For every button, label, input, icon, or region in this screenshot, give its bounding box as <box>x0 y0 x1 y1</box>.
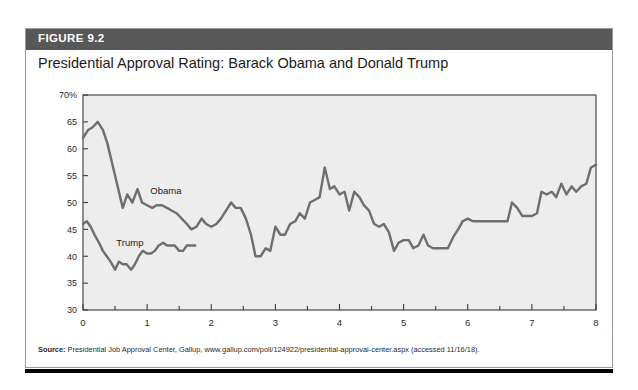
approval-rating-line-chart: 303540455055606570% 012345678 ObamaTrump <box>26 87 614 342</box>
series-label-obama: Obama <box>150 185 182 196</box>
x-tick-label: 7 <box>529 317 534 328</box>
y-tick-label: 45 <box>67 225 77 235</box>
figure-container: FIGURE 9.2 Presidential Approval Rating:… <box>25 28 613 368</box>
x-tick-label: 3 <box>273 317 278 328</box>
source-note: Source: Presidential Job Approval Center… <box>38 345 602 355</box>
x-tick-label: 8 <box>593 317 598 328</box>
y-tick-label: 30 <box>67 305 77 315</box>
x-axis-tick-labels: 012345678 <box>80 317 598 328</box>
plot-background <box>83 95 596 310</box>
x-tick-label: 0 <box>80 317 85 328</box>
chart-title: Presidential Approval Rating: Barack Oba… <box>38 55 448 71</box>
x-tick-label: 1 <box>144 317 149 328</box>
y-tick-label: 40 <box>67 252 77 262</box>
figure-header-bar: FIGURE 9.2 <box>26 29 612 50</box>
y-tick-label: 35 <box>67 278 77 288</box>
figure-bottom-rule <box>25 369 613 373</box>
y-tick-label: 60 <box>67 144 77 154</box>
y-tick-label: 65 <box>67 117 77 127</box>
x-tick-label: 2 <box>209 317 214 328</box>
y-tick-label: 55 <box>67 171 77 181</box>
figure-number-label: FIGURE 9.2 <box>38 32 105 44</box>
x-tick-label: 5 <box>401 317 406 328</box>
series-label-trump: Trump <box>116 237 143 248</box>
source-label: Source: <box>38 345 66 354</box>
chart-plot-area: 303540455055606570% 012345678 ObamaTrump <box>26 87 612 342</box>
y-tick-label: 70% <box>59 90 77 100</box>
x-tick-label: 6 <box>465 317 470 328</box>
y-tick-label: 50 <box>67 198 77 208</box>
x-tick-label: 4 <box>337 317 342 328</box>
y-axis-tick-labels: 303540455055606570% <box>59 90 77 315</box>
source-text: Presidential Job Approval Center, Gallup… <box>66 345 480 354</box>
